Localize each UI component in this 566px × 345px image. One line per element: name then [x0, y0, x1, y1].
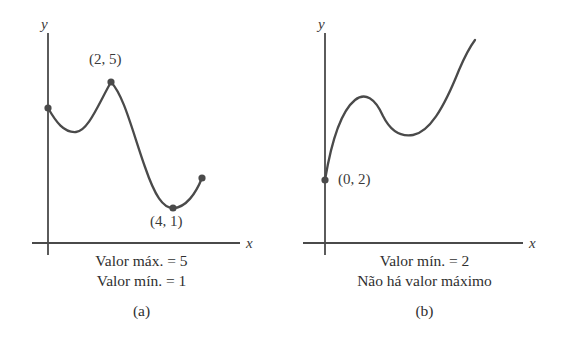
- y-axis-label-b: y: [318, 17, 325, 32]
- caption-b-line-2: Não há valor máximo: [283, 271, 566, 291]
- plot-a: [0, 0, 283, 255]
- plot-b: [283, 0, 566, 255]
- point-maximum-a: [107, 78, 114, 85]
- extreme-value-figure: y x (2, 5) (4, 1) Valor máx. = 5 Valor m…: [0, 0, 566, 345]
- panel-b: y x (0, 2) Valor mín. = 2 Não há valor m…: [283, 0, 566, 345]
- point-minimum-a: [169, 204, 176, 211]
- point-minimum-b: [321, 176, 328, 183]
- label-point-2-5: (2, 5): [89, 52, 122, 67]
- x-axis-label-b: x: [529, 236, 536, 251]
- point-left-endpoint-a: [44, 104, 51, 111]
- curve-a: [48, 82, 202, 208]
- panel-tag-b: (b): [283, 303, 566, 319]
- caption-b: Valor mín. = 2 Não há valor máximo: [283, 251, 566, 291]
- caption-b-line-1: Valor mín. = 2: [283, 251, 566, 271]
- label-point-0-2: (0, 2): [338, 172, 371, 187]
- panel-a: y x (2, 5) (4, 1) Valor máx. = 5 Valor m…: [0, 0, 283, 345]
- panel-tag-a: (a): [0, 303, 283, 319]
- caption-a: Valor máx. = 5 Valor mín. = 1: [0, 251, 283, 291]
- y-axis-label-a: y: [41, 17, 48, 32]
- label-point-4-1: (4, 1): [150, 214, 183, 229]
- x-axis-label-a: x: [246, 236, 253, 251]
- point-right-endpoint-a: [198, 174, 205, 181]
- caption-a-line-1: Valor máx. = 5: [0, 251, 283, 271]
- curve-b: [325, 40, 475, 180]
- caption-a-line-2: Valor mín. = 1: [0, 271, 283, 291]
